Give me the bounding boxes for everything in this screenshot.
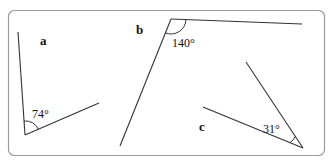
angle-c: c 31°	[199, 62, 303, 148]
angle-a-arc	[24, 121, 39, 130]
angle-c-arc	[290, 136, 295, 142]
angle-a: a 74°	[18, 32, 99, 135]
angle-b-arm-lower	[120, 19, 171, 146]
angle-b-arm-right	[171, 19, 302, 24]
angle-b-arc	[165, 20, 186, 34]
angle-b-letter: b	[136, 22, 143, 37]
angle-c-arm-left	[203, 107, 303, 148]
angle-a-value: 74°	[32, 107, 49, 121]
angle-b-value: 140°	[172, 36, 195, 50]
angle-c-value: 31°	[263, 122, 280, 136]
angles-diagram: a 74° b 140° c 31°	[0, 0, 333, 164]
angle-a-letter: a	[40, 33, 47, 48]
angle-c-letter: c	[199, 119, 205, 134]
angle-a-arm-upper	[18, 32, 25, 135]
